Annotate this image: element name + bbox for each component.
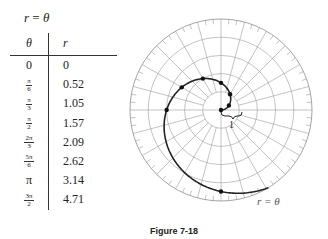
data-point bbox=[201, 76, 205, 80]
spiral-curve bbox=[164, 79, 268, 194]
data-point bbox=[180, 85, 184, 89]
curve-label: r = θ bbox=[257, 195, 280, 207]
data-point bbox=[227, 103, 231, 107]
data-point bbox=[219, 81, 223, 85]
figure-caption: Figure 7-18 bbox=[150, 226, 198, 236]
data-point bbox=[219, 108, 223, 112]
data-point bbox=[228, 92, 232, 96]
data-point bbox=[219, 189, 223, 193]
data-point bbox=[164, 108, 168, 112]
svg-text:1: 1 bbox=[229, 119, 234, 130]
